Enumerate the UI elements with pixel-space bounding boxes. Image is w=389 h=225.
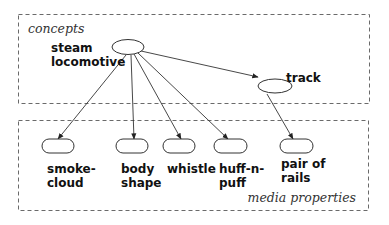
whistle-label: whistle — [167, 162, 216, 176]
pair-of-rails-pill[interactable] — [280, 139, 313, 153]
pair-of-rails-label-line-1: pair of — [281, 157, 326, 171]
track-label: track — [286, 71, 322, 85]
edge-steam-locomotive-to-whistle — [134, 54, 181, 139]
steam-locomotive-label-line-2: locomotive — [51, 55, 125, 69]
media-node-smoke-cloud[interactable]: smoke- cloud — [42, 139, 96, 190]
huff-n-puff-label-line-2: puff — [219, 176, 246, 190]
body-shape-label-line-2: shape — [121, 176, 162, 190]
body-shape-label-line-1: body — [121, 162, 154, 176]
media-properties-region-label: media properties — [248, 190, 356, 205]
concept-node-steam-locomotive[interactable]: steam locomotive — [51, 40, 144, 70]
huff-n-puff-label-line-1: huff-n- — [219, 162, 264, 176]
smoke-cloud-pill[interactable] — [42, 139, 74, 153]
concept-node-track[interactable]: track — [258, 71, 322, 93]
media-node-pair-of-rails[interactable]: pair of rails — [280, 139, 326, 185]
edge-steam-locomotive-to-body-shape — [131, 55, 134, 139]
media-node-body-shape[interactable]: body shape — [116, 139, 162, 190]
pair-of-rails-label-line-2: rails — [281, 171, 310, 185]
concept-media-diagram: concepts media properties steam locomoti… — [0, 0, 389, 225]
concepts-region-label: concepts — [28, 21, 84, 36]
edge-track-to-pair-of-rails — [267, 94, 293, 139]
whistle-pill[interactable] — [163, 139, 195, 153]
media-node-huff-n-puff[interactable]: huff-n- puff — [214, 139, 264, 190]
edge-steam-locomotive-to-huff-n-puff — [138, 53, 228, 139]
body-shape-pill[interactable] — [116, 139, 148, 153]
smoke-cloud-label-line-1: smoke- — [47, 162, 96, 176]
media-node-whistle[interactable]: whistle — [163, 139, 216, 176]
steam-locomotive-ellipse[interactable] — [112, 40, 144, 55]
huff-n-puff-pill[interactable] — [214, 139, 247, 153]
smoke-cloud-label-line-2: cloud — [47, 176, 84, 190]
steam-locomotive-label-line-1: steam — [51, 41, 93, 55]
